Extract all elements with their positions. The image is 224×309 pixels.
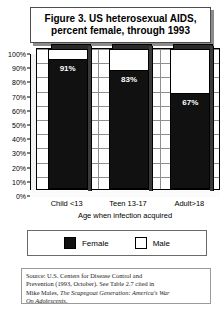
- source-line-4: On Adolescents.: [26, 297, 206, 305]
- y-axis-tick-60pct: 60%: [12, 107, 26, 114]
- figure-title-box: Figure 3. US heterosexual AIDS, percent …: [30, 7, 211, 43]
- bar-side-face: [149, 46, 153, 191]
- x-axis-tick-labels: Child <13Teen 13-17Adult>18: [30, 199, 220, 211]
- x-axis-tick-teen-13-17: Teen 13-17: [97, 199, 158, 208]
- legend-swatch-female-icon: [64, 237, 76, 249]
- y-axis-tick-30pct: 30%: [12, 150, 26, 157]
- x-axis-title: Age when infection acquired: [30, 211, 220, 220]
- gridline-vertical: [160, 49, 161, 189]
- chart-legend: Female Male: [27, 230, 207, 256]
- bar-top-face: [112, 44, 152, 49]
- source-line-2: Prevention (1993, October). See Table 2.…: [26, 280, 206, 288]
- bar-group: 83%: [109, 49, 149, 189]
- source-line-3: Mike Males, The Scapegoat Generation: Am…: [26, 289, 206, 297]
- bar-segment-female[interactable]: 67%: [171, 93, 209, 188]
- legend-item-female: Female: [64, 237, 109, 249]
- y-axis-tick-50pct: 50%: [12, 122, 26, 129]
- legend-item-male: Male: [135, 237, 170, 249]
- bar-side-face: [88, 46, 92, 191]
- x-axis-tick-child-13: Child <13: [36, 199, 97, 208]
- y-axis-tick-90pct: 90%: [12, 65, 26, 72]
- bar-stack-teen-13-17[interactable]: 83%: [109, 49, 149, 189]
- bar-group: 67%: [170, 49, 210, 189]
- plot-back-wall: 91%83%67%: [36, 48, 220, 190]
- bar-stack-child-13[interactable]: 91%: [48, 49, 88, 189]
- y-axis-tick-80pct: 80%: [12, 79, 26, 86]
- figure-container: Figure 3. US heterosexual AIDS, percent …: [0, 0, 224, 309]
- bar-value-label: 83%: [110, 75, 148, 84]
- x-axis-tick-adult-18: Adult>18: [159, 199, 220, 208]
- source-line-4-title: On Adolescents: [26, 297, 66, 304]
- y-axis-tick-labels: 0%10%20%30%40%50%60%70%80%90%100%: [2, 48, 30, 196]
- bar-stack-adult-18[interactable]: 67%: [170, 49, 210, 189]
- y-axis-tick-70pct: 70%: [12, 93, 26, 100]
- y-axis-tick-40pct: 40%: [12, 136, 26, 143]
- bar-top-face: [173, 44, 213, 49]
- source-line-1: Source: U.S. Centers for Disease Control…: [26, 272, 206, 280]
- figure-title-line-1: Figure 3. US heterosexual AIDS,: [45, 13, 197, 26]
- bar-top-face: [51, 44, 91, 49]
- y-axis-tick-20pct: 20%: [12, 164, 26, 171]
- source-line-3-title: The Scapegoat Generation: America's War: [60, 289, 170, 296]
- plot-floor-face: [30, 190, 220, 197]
- legend-label-female: Female: [82, 239, 109, 248]
- bar-value-label: 91%: [49, 64, 87, 73]
- y-axis-tick-10pct: 10%: [12, 178, 26, 185]
- y-axis-tick-0pct: 0%: [16, 193, 26, 200]
- bar-value-label: 67%: [171, 98, 209, 107]
- chart-plot-region: 0%10%20%30%40%50%60%70%80%90%100% 91%83%…: [2, 48, 222, 226]
- source-note-box: Source: U.S. Centers for Disease Control…: [21, 268, 211, 304]
- bar-segment-female[interactable]: 83%: [110, 70, 148, 188]
- bar-side-face: [210, 46, 214, 191]
- legend-label-male: Male: [153, 239, 170, 248]
- legend-swatch-male-icon: [135, 237, 147, 249]
- gridline-vertical: [98, 49, 99, 189]
- y-axis-tick-100pct: 100%: [8, 51, 26, 58]
- source-line-4-suffix: .: [66, 297, 68, 304]
- source-line-3-prefix: Mike Males,: [26, 289, 60, 296]
- figure-title-line-2: percent female, through 1993: [51, 25, 190, 38]
- bar-segment-female[interactable]: 91%: [49, 59, 87, 188]
- bar-group: 91%: [48, 49, 88, 189]
